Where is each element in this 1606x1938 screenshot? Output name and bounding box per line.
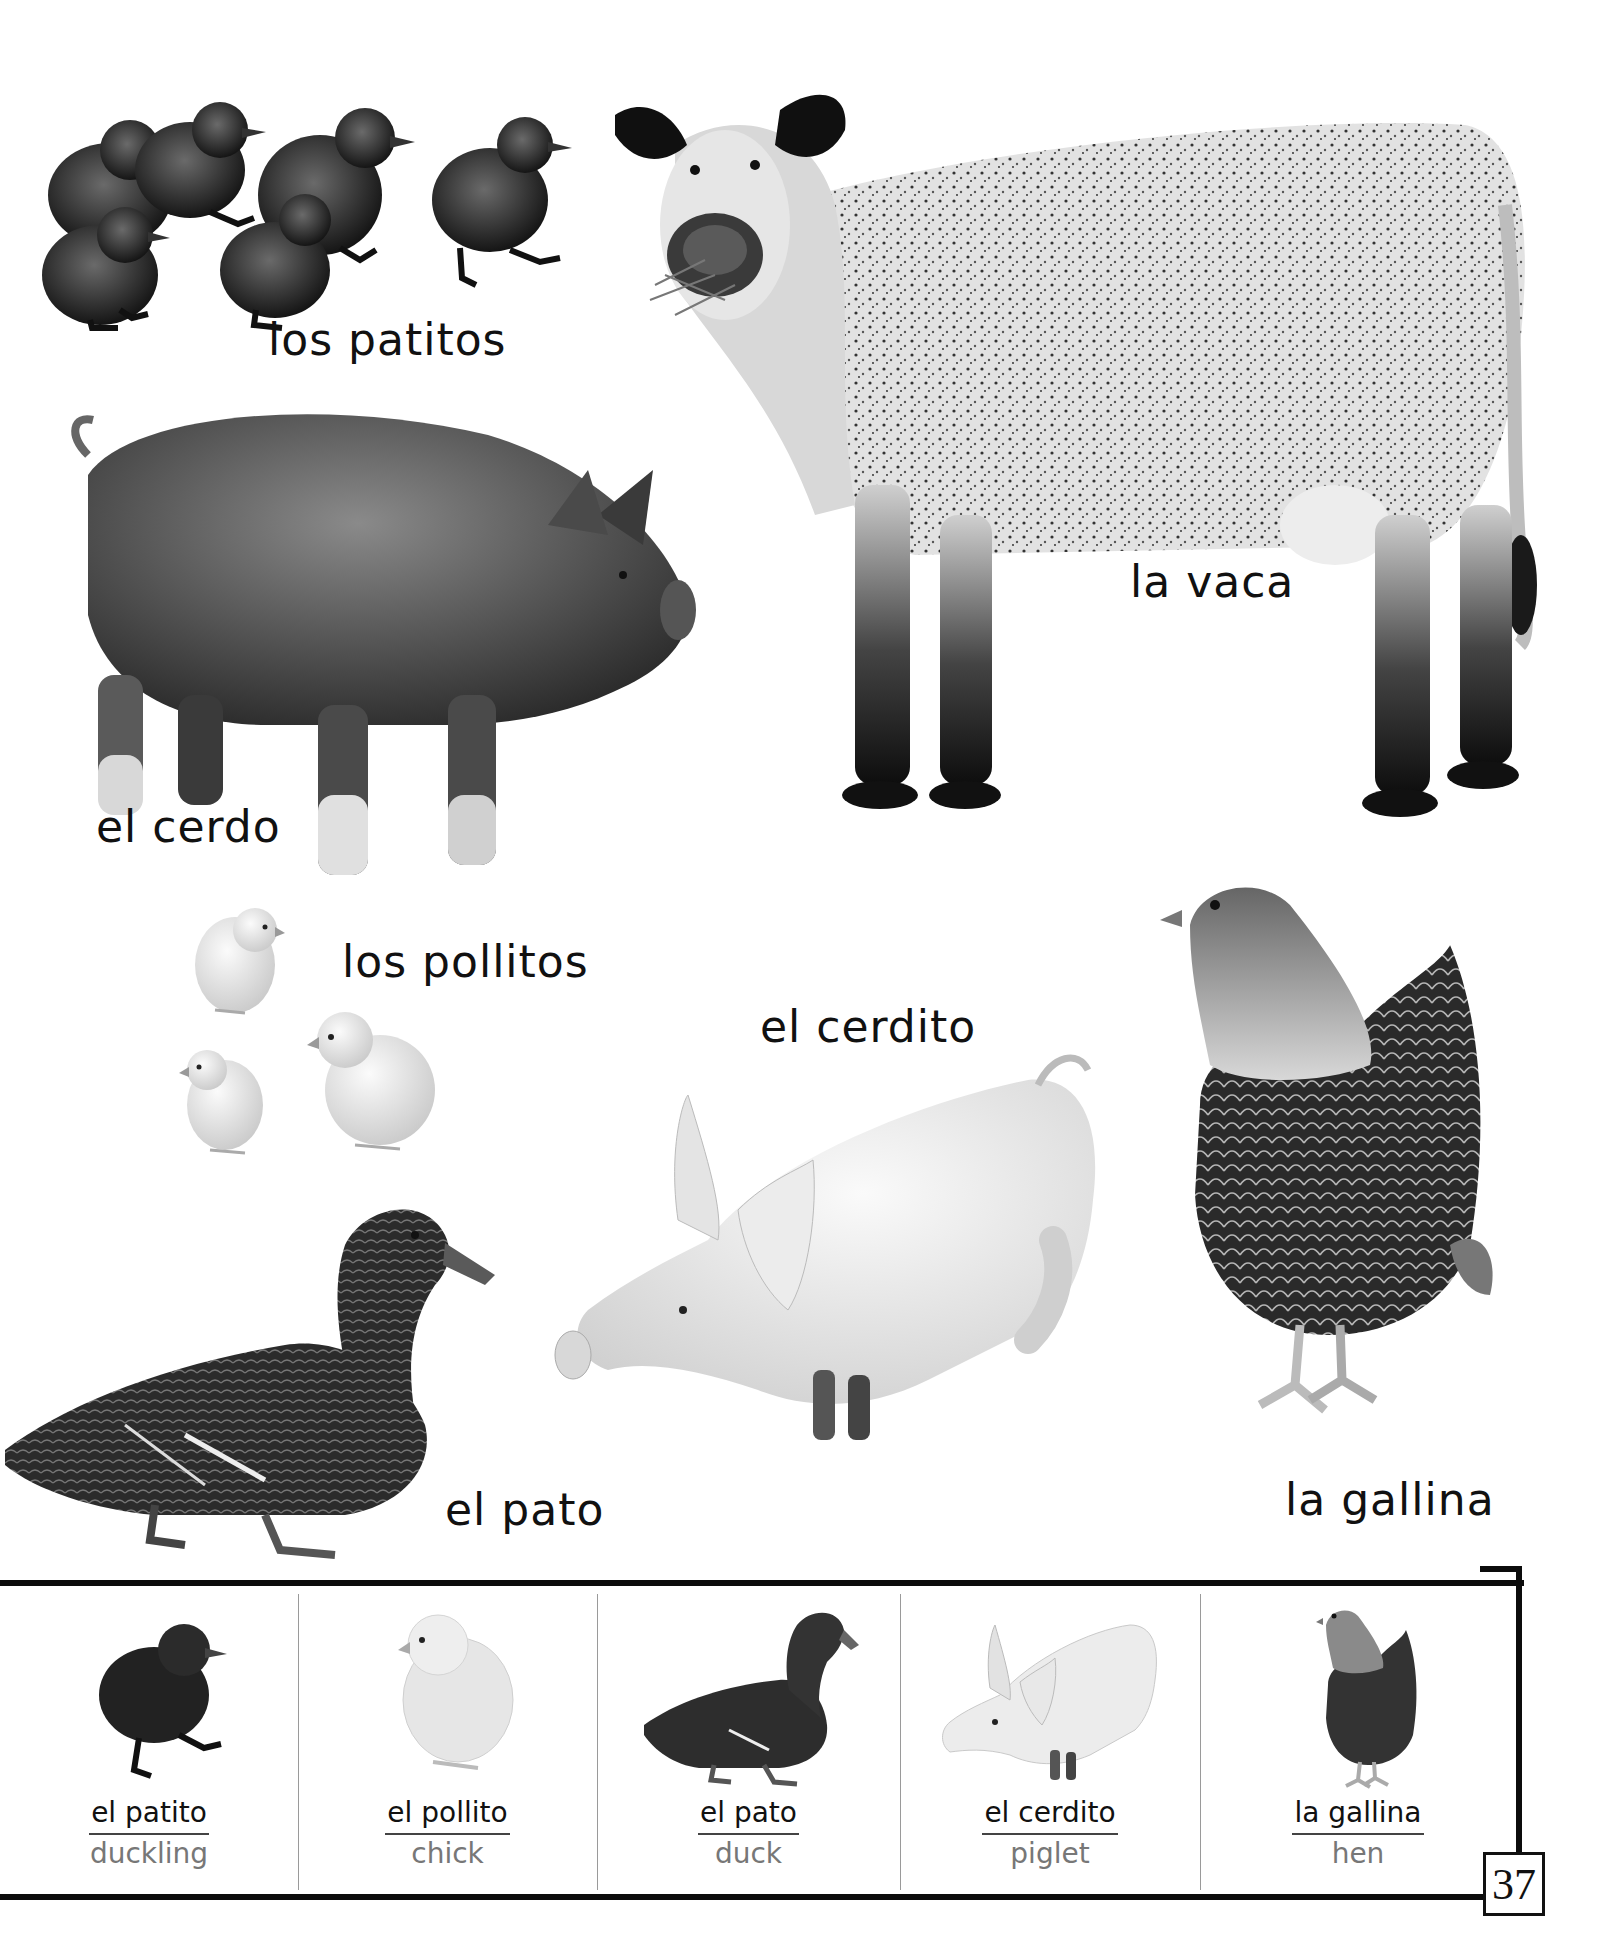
vocab-card-duck: el pato duck [597, 1594, 900, 1890]
duckling-icon [39, 1600, 259, 1790]
vocab-english: duck [715, 1839, 782, 1870]
vocab-english: duckling [90, 1839, 208, 1870]
label-piglet: el cerdito [760, 1005, 976, 1049]
chick-icon [338, 1600, 558, 1790]
vocab-card-duckling: el patito duckling [0, 1594, 298, 1890]
page-number-text: 37 [1492, 1859, 1536, 1910]
ducklings-icon [20, 100, 580, 330]
label-pig: el cerdo [96, 805, 281, 849]
vocab-english: chick [411, 1839, 484, 1870]
vocab-card-piglet: el cerdito piglet [900, 1594, 1200, 1890]
vocab-english: piglet [1010, 1839, 1089, 1870]
piglet-icon [940, 1600, 1160, 1790]
hen-icon [1160, 865, 1500, 1425]
vocab-spanish: el patito [89, 1798, 209, 1835]
piglet-icon [548, 1040, 1108, 1460]
vocab-card-hen: la gallina hen [1200, 1594, 1516, 1890]
vocab-spanish: el pollito [385, 1798, 509, 1835]
label-hen: la gallina [1285, 1478, 1495, 1522]
duck-icon [639, 1600, 859, 1790]
vocab-spanish: el pato [698, 1798, 799, 1835]
vocab-card-chick: el pollito chick [298, 1594, 597, 1890]
vocab-strip-top-border [0, 1580, 1524, 1586]
cow-icon [615, 85, 1555, 845]
label-duck: el pato [445, 1488, 604, 1532]
page-number: 37 [1483, 1852, 1545, 1916]
vocab-spanish: el cerdito [982, 1798, 1117, 1835]
vocab-spanish: la gallina [1292, 1798, 1423, 1835]
duck-icon [5, 1195, 495, 1565]
label-chicks: los pollitos [342, 940, 589, 984]
vocab-english: hen [1332, 1839, 1385, 1870]
hen-icon [1248, 1600, 1468, 1790]
vocab-strip-bottom-border [0, 1894, 1486, 1900]
vocab-strip-right-border [1516, 1566, 1522, 1854]
label-ducklings: los patitos [268, 318, 507, 362]
label-cow: la vaca [1130, 560, 1294, 604]
